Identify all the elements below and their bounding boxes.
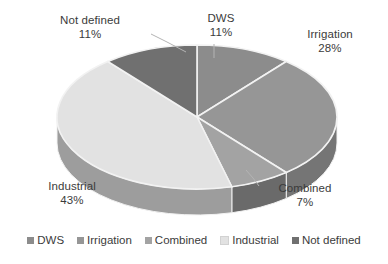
slice-label-name: Industrial [28,180,116,194]
pie-chart: Not defined 11% DWS 11% Irrigation 28% C… [0,0,388,264]
legend-item[interactable]: DWS [27,234,64,247]
legend-label: DWS [37,234,64,247]
legend-item[interactable]: Combined [145,234,207,247]
slice-label-name: Not defined [44,14,136,28]
slice-label-name: DWS [186,12,256,26]
legend-swatch-icon [77,237,84,244]
slice-label-value: 43% [28,194,116,208]
pie-top-faces [57,45,337,189]
slice-label-value: 11% [186,26,256,40]
slice-label-value: 7% [262,196,348,210]
legend-label: Industrial [232,234,279,247]
legend-item[interactable]: Industrial [220,234,279,247]
slice-label-not-defined: Not defined 11% [44,14,136,41]
legend-swatch-icon [27,237,34,244]
slice-label-dws: DWS 11% [186,12,256,39]
slice-label-industrial: Industrial 43% [28,180,116,207]
legend-label: Combined [155,234,207,247]
legend-swatch-icon [220,236,229,245]
legend-item[interactable]: Irrigation [77,234,132,247]
slice-label-value: 11% [44,28,136,42]
legend-label: Irrigation [87,234,132,247]
slice-label-value: 28% [288,42,372,56]
legend-item[interactable]: Not defined [292,234,361,247]
slice-label-irrigation: Irrigation 28% [288,28,372,55]
slice-label-name: Combined [262,182,348,196]
slice-label-name: Irrigation [288,28,372,42]
legend-swatch-icon [145,237,152,244]
slice-label-combined: Combined 7% [262,182,348,209]
legend-swatch-icon [292,237,299,244]
chart-legend: DWSIrrigationCombinedIndustrialNot defin… [0,228,388,252]
legend-label: Not defined [302,234,361,247]
